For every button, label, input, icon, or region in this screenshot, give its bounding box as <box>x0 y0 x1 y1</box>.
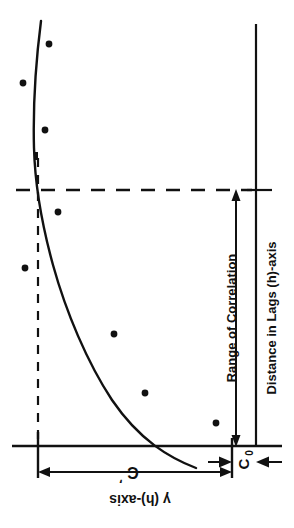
h-axis-label: Distance in Lags (h)-axis <box>264 241 279 394</box>
data-point <box>213 420 220 427</box>
data-point <box>142 390 149 397</box>
range-of-correlation-label: Range of Correlation <box>224 254 239 383</box>
range-arrow-head-top <box>232 189 241 201</box>
nugget-c0-subscript: 0 <box>244 450 255 456</box>
sill-arrow-head-right <box>220 467 232 477</box>
data-point <box>46 41 53 48</box>
data-point <box>111 331 118 338</box>
fitted-model-curve <box>34 21 196 468</box>
data-point-group <box>20 41 220 427</box>
nugget-c0-label: C <box>235 458 252 469</box>
data-point <box>42 127 49 134</box>
nugget-arrow-head-right <box>256 457 269 468</box>
sill-c-label: C <box>127 464 139 481</box>
range-of-correlation-annotation: Range of Correlation <box>224 189 241 447</box>
data-point <box>55 209 62 216</box>
data-point <box>22 265 29 272</box>
nugget-c0-annotation: C 0 <box>208 450 282 470</box>
sill-c-prime-label: ′ <box>119 471 122 486</box>
sill-arrow-head-left <box>38 467 50 477</box>
data-point <box>20 80 27 87</box>
variogram-figure: Range of Correlation Distance in Lags (h… <box>0 0 294 528</box>
nugget-arrow-head-left <box>219 457 232 468</box>
gamma-axis-label: γ (h)-axis <box>109 492 171 508</box>
sill-c-annotation: C ′ <box>38 464 232 486</box>
variogram-plot: Range of Correlation Distance in Lags (h… <box>0 0 294 528</box>
